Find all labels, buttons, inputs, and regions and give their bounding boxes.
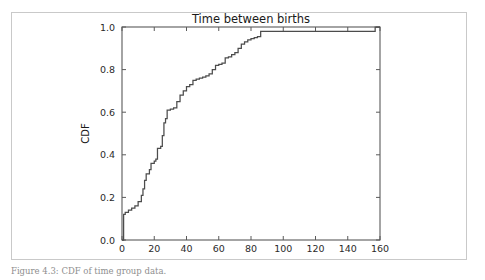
y-tick-label: 0.8	[100, 64, 115, 75]
cdf-step-line	[122, 27, 380, 240]
x-axis-label: minutes	[231, 258, 271, 259]
x-tick-label: 20	[148, 243, 160, 254]
y-tick-label: 0.4	[100, 149, 115, 160]
x-tick-label: 160	[371, 243, 389, 254]
figure-panel: 0204060801001201401600.00.20.40.60.81.0T…	[11, 12, 467, 260]
figure-caption: Figure 4.3: CDF of time group data.	[11, 266, 471, 276]
x-tick-label: 60	[213, 243, 225, 254]
x-tick-label: 140	[339, 243, 357, 254]
x-tick-label: 80	[245, 243, 257, 254]
x-tick-label: 40	[180, 243, 192, 254]
chart-title: Time between births	[191, 13, 310, 26]
x-tick-label: 120	[306, 243, 324, 254]
y-tick-label: 0.2	[100, 192, 115, 203]
y-tick-label: 1.0	[100, 22, 115, 33]
x-tick-label: 0	[119, 243, 125, 254]
cdf-chart: 0204060801001201401600.00.20.40.60.81.0T…	[12, 13, 466, 259]
y-axis-label: CDF	[80, 123, 91, 144]
plot-frame	[122, 27, 380, 240]
y-tick-label: 0.0	[100, 235, 115, 246]
x-tick-label: 100	[274, 243, 292, 254]
y-tick-label: 0.6	[100, 107, 115, 118]
